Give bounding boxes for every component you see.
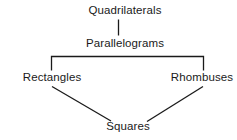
node-rhombuses: Rhombuses <box>171 71 233 84</box>
node-squares: Squares <box>106 120 150 133</box>
connector-lines-layer <box>0 0 237 140</box>
node-quadrilaterals: Quadrilaterals <box>89 4 162 17</box>
node-rectangles: Rectangles <box>23 71 82 84</box>
quadrilateral-hierarchy-diagram: Quadrilaterals Parallelograms Rectangles… <box>0 0 237 140</box>
edge-rectangles-to-squares <box>52 87 111 122</box>
edge-rhombuses-to-squares <box>147 87 203 122</box>
node-parallelograms: Parallelograms <box>86 37 164 50</box>
edge-parallelograms-bracket-to-rectangles-rhombuses <box>52 57 204 71</box>
